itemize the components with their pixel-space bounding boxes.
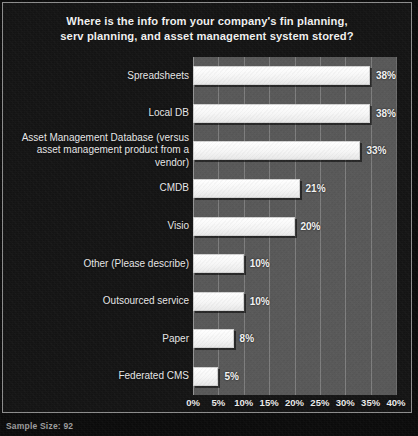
x-tick-10: 10% (234, 397, 253, 408)
chart-title: Where is the info from your company's fi… (13, 14, 401, 43)
category-label: Federated CMS (7, 370, 189, 383)
category-label-line: Paper (7, 332, 189, 345)
bar-row: 10% (193, 290, 396, 312)
category-label-line: Spreadsheets (7, 70, 189, 83)
bar-row: 38% (193, 102, 396, 124)
x-tick-35: 35% (361, 397, 380, 408)
chart-title-line-1: Where is the info from your company's fi… (13, 14, 401, 29)
bar (193, 66, 370, 85)
bar (193, 329, 234, 348)
bar-value-label: 5% (224, 371, 238, 382)
bar-row: 10% (193, 253, 396, 275)
bar (193, 367, 218, 386)
category-label-line: Visio (7, 220, 189, 233)
bar (193, 104, 370, 123)
bar-value-label: 21% (306, 183, 326, 194)
bar-row: 5% (193, 365, 396, 387)
bar (193, 141, 360, 160)
bar-rows: 38%38%33%21%20%10%10%8%5% (193, 57, 396, 395)
bar (193, 292, 244, 311)
category-label-line: Local DB (7, 107, 189, 120)
bar (193, 179, 300, 198)
bar-row: 20% (193, 215, 396, 237)
bar-row: 8% (193, 328, 396, 350)
x-tick-15: 15% (260, 397, 279, 408)
bar-value-label: 10% (250, 258, 270, 269)
category-label-line: Asset Management Database (versus (7, 132, 189, 145)
bar-value-label: 10% (250, 296, 270, 307)
category-axis-labels: SpreadsheetsLocal DBAsset Management Dat… (7, 57, 189, 395)
x-tick-25: 25% (310, 397, 329, 408)
category-label: Visio (7, 220, 189, 233)
x-tick-20: 20% (285, 397, 304, 408)
x-tick-0: 0% (186, 397, 200, 408)
category-label-line: CMDB (7, 182, 189, 195)
bar-value-label: 38% (376, 108, 396, 119)
category-label-line: Federated CMS (7, 370, 189, 383)
plot-area: 38%38%33%21%20%10%10%8%5% (193, 57, 396, 395)
category-label-line: Outsourced service (7, 295, 189, 308)
x-tick-5: 5% (212, 397, 226, 408)
chart-title-line-2: serv planning, and asset management syst… (13, 29, 401, 44)
chart-frame: Where is the info from your company's fi… (2, 2, 412, 413)
bar (193, 217, 295, 236)
bar-value-label: 38% (376, 70, 396, 81)
bar-value-label: 20% (301, 221, 321, 232)
gridline-40 (396, 57, 397, 395)
x-tick-30: 30% (336, 397, 355, 408)
x-axis-tick-labels: 0%5%10%15%20%25%30%35%40% (193, 397, 396, 413)
bar-value-label: 33% (366, 145, 386, 156)
category-label: Asset Management Database (versusasset m… (7, 132, 189, 170)
category-label: Other (Please describe) (7, 257, 189, 270)
category-label-line: Other (Please describe) (7, 257, 189, 270)
bar-row: 33% (193, 140, 396, 162)
category-label: Spreadsheets (7, 70, 189, 83)
category-label: Outsourced service (7, 295, 189, 308)
category-label: CMDB (7, 182, 189, 195)
sample-size-caption: Sample Size: 92 (6, 421, 73, 431)
category-label: Local DB (7, 107, 189, 120)
category-label-line: asset management product from a (7, 145, 189, 158)
x-tick-40: 40% (386, 397, 405, 408)
category-label-line: vendor) (7, 157, 189, 170)
category-label: Paper (7, 332, 189, 345)
bar-row: 21% (193, 177, 396, 199)
bar (193, 254, 244, 273)
bar-row: 38% (193, 65, 396, 87)
bar-value-label: 8% (240, 333, 254, 344)
